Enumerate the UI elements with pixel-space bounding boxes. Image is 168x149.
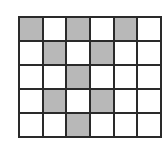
shaded-cell bbox=[66, 113, 90, 137]
empty-cell bbox=[90, 17, 114, 41]
empty-cell bbox=[19, 65, 43, 89]
shaded-cell bbox=[90, 41, 114, 65]
empty-cell bbox=[43, 17, 67, 41]
empty-cell bbox=[114, 41, 138, 65]
empty-cell bbox=[19, 41, 43, 65]
empty-cell bbox=[137, 113, 161, 137]
empty-cell bbox=[19, 113, 43, 137]
empty-cell bbox=[137, 89, 161, 113]
empty-cell bbox=[43, 65, 67, 89]
shaded-cell bbox=[66, 17, 90, 41]
shaded-grid bbox=[18, 16, 162, 138]
empty-cell bbox=[137, 65, 161, 89]
shaded-cell bbox=[43, 89, 67, 113]
empty-cell bbox=[66, 41, 90, 65]
empty-cell bbox=[66, 89, 90, 113]
shaded-cell bbox=[66, 65, 90, 89]
shaded-cell bbox=[114, 17, 138, 41]
shaded-cell bbox=[90, 89, 114, 113]
empty-cell bbox=[137, 41, 161, 65]
empty-cell bbox=[90, 65, 114, 89]
empty-cell bbox=[90, 113, 114, 137]
empty-cell bbox=[19, 89, 43, 113]
empty-cell bbox=[114, 89, 138, 113]
empty-cell bbox=[114, 113, 138, 137]
empty-cell bbox=[114, 65, 138, 89]
shaded-cell bbox=[19, 17, 43, 41]
empty-cell bbox=[43, 113, 67, 137]
empty-cell bbox=[137, 17, 161, 41]
shaded-cell bbox=[43, 41, 67, 65]
